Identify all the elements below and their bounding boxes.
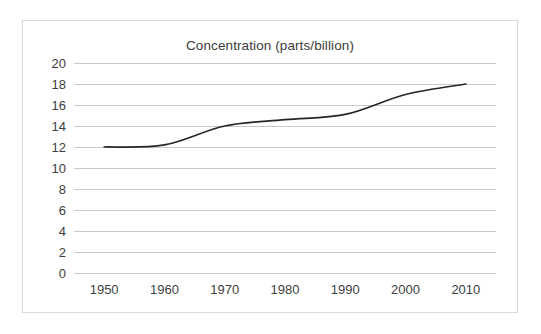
x-axis-tick-label: 1970 (210, 282, 239, 297)
y-axis-tick-label: 0 (59, 266, 66, 281)
x-axis-tick-label: 1950 (90, 282, 119, 297)
x-axis-tick-label: 2000 (391, 282, 420, 297)
x-axis-tick-label: 1980 (271, 282, 300, 297)
y-axis-tick-label: 16 (52, 98, 66, 113)
data-line-path (104, 84, 466, 147)
y-axis-tick-label: 10 (52, 161, 66, 176)
x-axis-tick-label: 1990 (331, 282, 360, 297)
y-axis-tick-label: 12 (52, 140, 66, 155)
y-axis-tick-label: 4 (59, 224, 66, 239)
y-axis-tick-label: 14 (52, 119, 66, 134)
y-axis-tick-label: 18 (52, 77, 66, 92)
y-axis-tick-label: 2 (59, 245, 66, 260)
plot-area: 02468101214161820 1950196019701980199020… (74, 63, 496, 273)
y-axis-tick-label: 20 (52, 56, 66, 71)
y-axis-tick-label: 6 (59, 203, 66, 218)
x-axis-tick-label: 1960 (150, 282, 179, 297)
data-series-concentration (74, 63, 496, 273)
x-axis-tick-label: 2010 (451, 282, 480, 297)
y-axis-tick-label: 8 (59, 182, 66, 197)
gridline (74, 273, 496, 274)
chart-title: Concentration (parts/billion) (23, 38, 517, 53)
chart-figure: Concentration (parts/billion) 0246810121… (22, 20, 518, 313)
